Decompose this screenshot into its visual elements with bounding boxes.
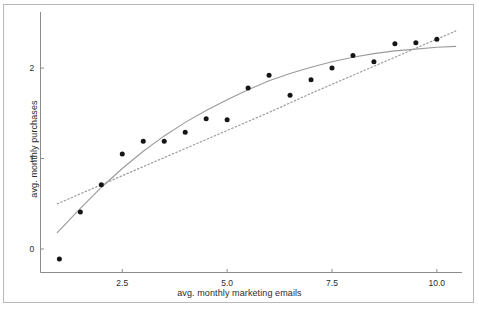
chart-figure: 2.55.07.510.0 012 avg. monthly marketing… (0, 0, 479, 310)
data-point (329, 66, 334, 71)
data-point (413, 40, 418, 45)
data-point (434, 37, 439, 42)
x-tick-label: 5.0 (221, 278, 233, 288)
data-point (309, 77, 314, 82)
y-axis-label: avg. monthly purchases (29, 100, 39, 197)
x-tick-label: 10.0 (429, 278, 446, 288)
data-point (162, 139, 167, 144)
x-axis-label: avg. monthly marketing emails (0, 288, 479, 298)
data-point-markers (57, 37, 439, 262)
tick-marks (41, 68, 437, 272)
x-tick-label: 7.5 (326, 278, 338, 288)
data-point (57, 256, 62, 261)
data-point (225, 117, 230, 122)
data-point (246, 85, 251, 90)
dotted-fit-line (57, 31, 455, 204)
data-point (267, 73, 272, 78)
data-point (141, 139, 146, 144)
x-tick-label: 2.5 (116, 278, 128, 288)
data-point (288, 93, 293, 98)
data-point (99, 182, 104, 187)
data-point (371, 59, 376, 64)
data-point (350, 53, 355, 58)
data-point (120, 152, 125, 157)
solid-fit-curve (57, 46, 455, 232)
y-axis-label-rotator: avg. monthly purchases (23, 29, 41, 269)
data-point (204, 116, 209, 121)
data-point (183, 130, 188, 135)
scatter-plot-canvas (0, 0, 479, 310)
data-point (78, 209, 83, 214)
data-point (392, 41, 397, 46)
